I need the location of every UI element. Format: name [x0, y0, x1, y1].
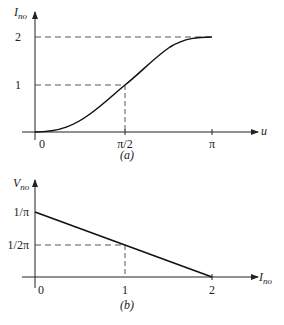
chart-b-xtick-label: 0 [38, 283, 44, 297]
figure: Ino 2 1 0 π/2 π u (a) Vno 1/π 1/2π 0 1 2… [0, 0, 284, 325]
chart-b-xtick-label: 1 [122, 283, 128, 297]
chart-a: Ino 2 1 0 π/2 π u (a) [13, 5, 267, 162]
chart-b-ytick-label: 1/2π [8, 238, 29, 252]
chart-a-ylabel: Ino [13, 5, 28, 21]
chart-b-caption: (b) [120, 298, 134, 312]
chart-b-xtick-label: 2 [209, 283, 215, 297]
chart-b-ytick-label: 1/π [14, 205, 29, 219]
chart-b-ylabel: Vno [13, 176, 30, 192]
chart-b-line [35, 212, 212, 277]
chart-a-ytick-label: 2 [15, 30, 21, 44]
chart-a-xtick-label: 0 [39, 137, 45, 151]
chart-a-curve [35, 37, 212, 132]
chart-a-ytick-label: 1 [15, 78, 21, 92]
chart-b: Vno 1/π 1/2π 0 1 2 Ino (b) [8, 176, 273, 312]
chart-a-xlabel: u [261, 124, 267, 138]
chart-b-xlabel: Ino [258, 270, 273, 286]
chart-a-caption: (a) [120, 148, 134, 162]
chart-a-xtick-label: π [209, 137, 215, 151]
